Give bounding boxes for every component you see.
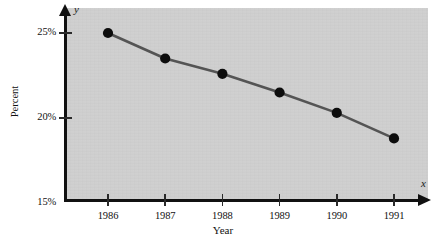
y-axis-title: Percent [9,67,20,137]
x-tick-label: 1989 [258,210,302,221]
x-tick-mark [279,194,281,206]
y-axis-letter: y [74,3,79,15]
x-axis-letter: x [421,177,426,189]
chart-figure: y x 25%20%15% 198619871988198919901991 Y… [0,0,446,243]
x-tick-label: 1991 [372,210,416,221]
x-tick-label: 1987 [143,210,187,221]
x-tick-label: 1986 [86,210,130,221]
y-tick-mark [59,117,72,119]
y-tick-label: 15% [26,196,56,207]
x-axis-line [64,199,420,202]
x-tick-mark [164,194,166,206]
x-tick-mark [222,194,224,206]
y-tick-mark [59,32,72,34]
x-tick-mark [336,194,338,206]
x-tick-mark [107,194,109,206]
x-axis-title: Year [0,224,446,236]
y-tick-label: 20% [26,111,56,122]
y-axis-arrowhead [59,4,71,16]
y-axis-line [64,14,67,202]
x-tick-label: 1990 [315,210,359,221]
plot-area [66,8,428,200]
x-tick-mark [393,194,395,206]
x-tick-label: 1988 [200,210,244,221]
y-tick-label: 25% [26,26,56,37]
x-axis-arrowhead [418,194,431,206]
